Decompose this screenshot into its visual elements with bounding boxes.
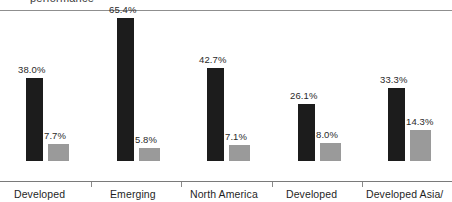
bar-value-label-dark: 26.1%	[290, 90, 317, 101]
bar-value-label-dark: 38.0%	[18, 64, 45, 75]
bar-value-label-gray: 5.8%	[135, 134, 157, 145]
x-axis-category-label: Developed	[286, 188, 337, 200]
x-axis-category-label: Emerging	[110, 188, 156, 200]
x-axis-line	[0, 181, 452, 182]
x-axis-category-label: Developed Asia/	[366, 188, 443, 200]
bar-gray	[320, 143, 341, 161]
plot-area: 38.0% 7.7% 65.4% 5.8% 42.7% 7.1%	[0, 12, 452, 182]
chart-figure: performance 38.0% 7.7% 65.4% 5.8%	[0, 0, 452, 202]
bar-group: 42.7% 7.1%	[181, 1, 271, 161]
bar-value-label-gray: 14.3%	[406, 116, 433, 127]
bar-group: 26.1% 8.0%	[272, 1, 362, 161]
bar-dark	[388, 88, 405, 161]
bar-group: 38.0% 7.7%	[0, 1, 90, 161]
bar-gray	[410, 130, 431, 161]
bar-value-label-gray: 7.7%	[44, 130, 66, 141]
bar-gray	[139, 148, 160, 161]
bar-value-label-gray: 7.1%	[225, 131, 247, 142]
bar-dark	[117, 18, 134, 161]
bar-dark	[298, 104, 315, 161]
x-axis-tick	[272, 182, 273, 187]
bar-group: 65.4% 5.8%	[91, 1, 181, 161]
bar-group: 33.3% 14.3%	[362, 1, 452, 161]
x-axis-category-label: North America	[190, 188, 258, 200]
x-axis-tick	[181, 182, 182, 187]
bar-gray	[48, 144, 69, 161]
bar-value-label-dark: 33.3%	[380, 74, 407, 85]
x-axis-tick	[362, 182, 363, 187]
bar-dark	[26, 78, 43, 161]
bar-value-label-gray: 8.0%	[316, 129, 338, 140]
bar-gray	[229, 145, 250, 161]
bar-value-label-dark: 65.4%	[109, 4, 136, 15]
x-axis-tick	[91, 182, 92, 187]
bar-value-label-dark: 42.7%	[199, 54, 226, 65]
bar-dark	[207, 68, 224, 161]
x-axis-category-label: Developed	[14, 188, 65, 200]
